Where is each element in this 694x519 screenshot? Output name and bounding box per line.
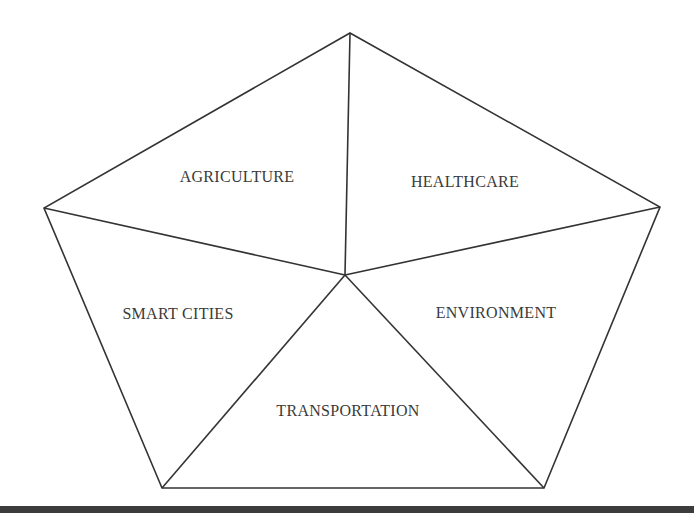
segment-label-smart-cities: SMART CITIES xyxy=(122,305,233,323)
pentagon-lines xyxy=(0,0,694,519)
segment-label-agriculture: AGRICULTURE xyxy=(180,168,295,186)
segment-label-healthcare: HEALTHCARE xyxy=(411,173,519,191)
segment-label-transportation: TRANSPORTATION xyxy=(276,402,419,420)
pentagon-diagram: AGRICULTURE HEALTHCARE SMART CITIES ENVI… xyxy=(0,0,694,519)
segment-label-environment: ENVIRONMENT xyxy=(436,304,557,322)
bottom-divider-bar xyxy=(0,506,694,513)
